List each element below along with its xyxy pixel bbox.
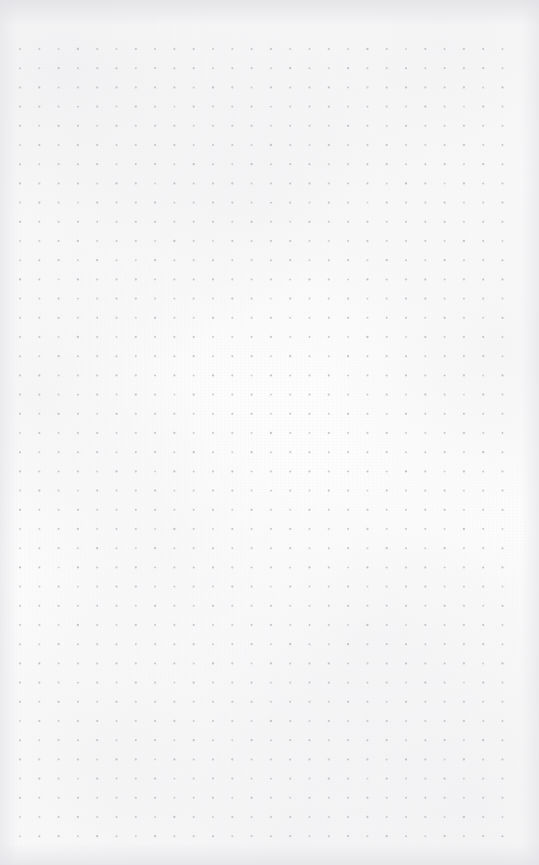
dot-grid-page [0,0,539,865]
paper-edge-shadow [0,0,539,865]
